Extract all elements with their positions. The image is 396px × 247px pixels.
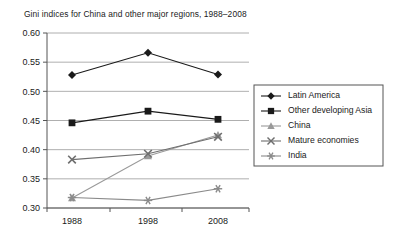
series-line <box>72 135 218 198</box>
diamond-marker-icon <box>144 49 152 57</box>
diamond-marker-icon <box>214 70 222 78</box>
y-axis-tick-label: 0.50 <box>22 87 40 97</box>
y-axis-tick-label: 0.45 <box>22 116 40 126</box>
data-series-group <box>68 49 222 79</box>
chart-container: Gini indices for China and other major r… <box>0 0 396 247</box>
y-axis-tick-label: 0.55 <box>22 57 40 67</box>
x-axis-tick-label: 1998 <box>138 216 158 226</box>
chart-legend: Latin AmericaOther developing AsiaChinaM… <box>254 85 383 166</box>
y-axis-tick-label: 0.40 <box>22 145 40 155</box>
data-series <box>68 49 222 204</box>
x-axis-tick-label: 1988 <box>62 216 82 226</box>
y-axis-tick-label: 0.60 <box>22 28 40 38</box>
square-marker-icon <box>69 119 76 126</box>
series-line <box>72 53 218 75</box>
series-line <box>72 189 218 201</box>
y-axis-tick-label: 0.30 <box>22 203 40 213</box>
asterisk-marker-icon <box>214 185 222 192</box>
legend-label: Latin America <box>288 90 340 100</box>
square-marker-icon <box>268 108 274 114</box>
square-marker-icon <box>215 116 222 123</box>
line-chart-plot: 0.300.350.400.450.500.550.60 19881998200… <box>0 0 396 247</box>
square-marker-icon <box>145 108 152 115</box>
y-axis-tick-label: 0.35 <box>22 174 40 184</box>
legend-label: India <box>288 150 307 160</box>
x-axis-labels: 198819982008 <box>62 216 228 226</box>
y-axis-labels: 0.300.350.400.450.500.550.60 <box>22 28 40 213</box>
diamond-marker-icon <box>68 71 76 79</box>
legend-label: Mature economies <box>288 135 359 145</box>
legend-label: Other developing Asia <box>288 105 372 115</box>
asterisk-marker-icon <box>144 197 152 204</box>
x-axis-tick-label: 2008 <box>208 216 228 226</box>
legend-label: China <box>288 120 311 130</box>
data-series-group <box>69 108 222 126</box>
